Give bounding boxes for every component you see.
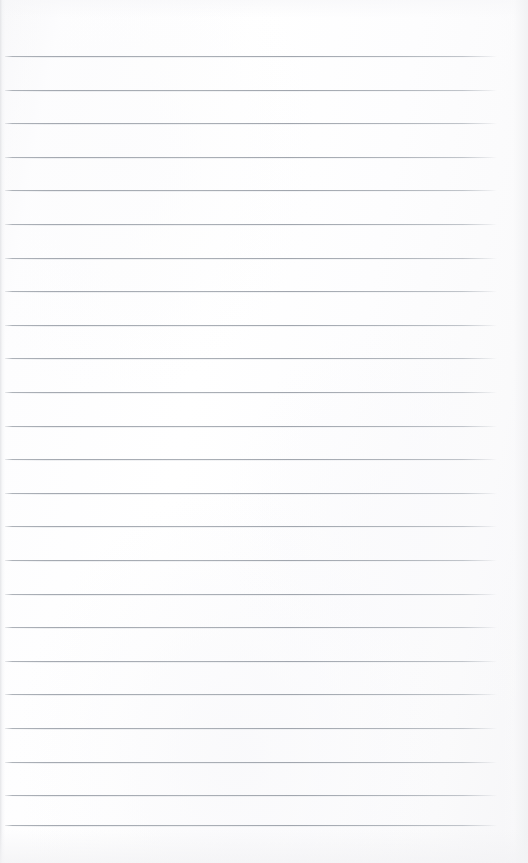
rule-line bbox=[5, 325, 497, 326]
rule-line bbox=[5, 825, 497, 826]
rule-line bbox=[5, 560, 497, 561]
rule-line bbox=[5, 594, 497, 595]
ruled-lines-layer bbox=[0, 0, 528, 863]
rule-line bbox=[5, 762, 497, 763]
rule-line bbox=[5, 728, 497, 729]
rule-line bbox=[5, 190, 497, 191]
rule-line bbox=[5, 291, 497, 292]
rule-line bbox=[5, 90, 497, 91]
rule-line bbox=[5, 526, 497, 527]
ruled-paper-page bbox=[0, 0, 528, 863]
rule-line bbox=[5, 493, 497, 494]
rule-line bbox=[5, 661, 497, 662]
rule-line bbox=[5, 123, 497, 124]
rule-line bbox=[5, 392, 497, 393]
rule-line bbox=[5, 795, 497, 796]
rule-line bbox=[5, 694, 497, 695]
rule-line bbox=[5, 459, 497, 460]
rule-line bbox=[5, 426, 497, 427]
rule-line bbox=[5, 157, 497, 158]
rule-line bbox=[5, 224, 497, 225]
rule-line bbox=[5, 258, 497, 259]
rule-line bbox=[5, 358, 497, 359]
rule-line bbox=[5, 627, 497, 628]
rule-line bbox=[5, 56, 497, 57]
